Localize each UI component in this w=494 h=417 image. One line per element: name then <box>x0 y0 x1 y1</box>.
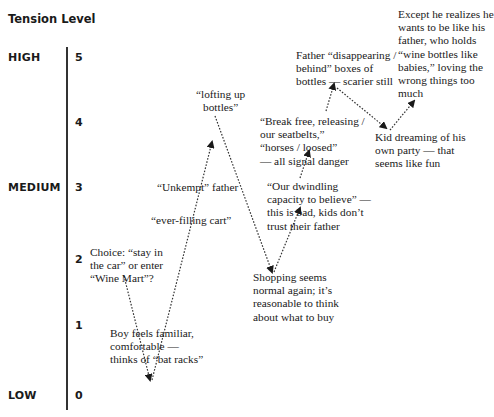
event-unkempt-father: “Unkempt” father <box>157 181 238 194</box>
event-kid-dreaming: Kid dreaming of his own party — that see… <box>375 131 466 171</box>
event-boy-familiar: Boy feels familiar, comfortable — thinks… <box>110 327 203 367</box>
event-lofting-bottles: “lofting up bottles” <box>196 88 245 114</box>
event-ever-filling-cart: “ever-filling cart” <box>151 214 231 227</box>
event-father-disappearing: Father “disappearing / behind” boxes of … <box>296 49 396 89</box>
event-break-free: “Break free, releasing / our seatbelts,”… <box>260 115 365 168</box>
event-choice: Choice: “stay in the car” or enter “Wine… <box>90 246 163 286</box>
event-dwindling-capacity: “Our dwindling capacity to believe” — th… <box>267 180 371 233</box>
event-except-realizes: Except he realizes he wants to be like h… <box>398 8 494 100</box>
event-shopping-normal: Shopping seems normal again; it’s reason… <box>253 271 339 324</box>
